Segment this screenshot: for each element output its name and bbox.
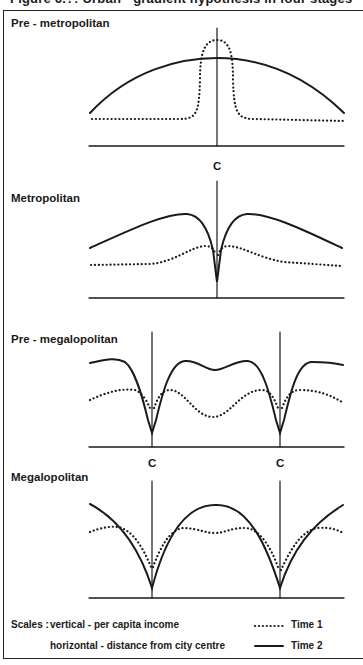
time2-curve: [90, 214, 342, 282]
legend-scales-label: Scales :: [11, 619, 49, 630]
panel-metropolitan: [89, 181, 344, 298]
panel-megalopolitan: [89, 481, 344, 598]
panel-pre-megalopolitan: [89, 332, 344, 447]
time1-curve: [90, 390, 342, 417]
time2-curve: [90, 504, 343, 588]
time1-curve: [90, 527, 343, 570]
legend-vertical-scale: vertical - per capita income: [50, 619, 179, 630]
time2-curve: [90, 359, 343, 433]
legend-time1-label: Time 1: [291, 619, 323, 630]
panel-pre-metropolitan: [89, 28, 344, 146]
legend-horizontal-scale: horizontal - distance from city centre: [50, 640, 225, 651]
legend-time2-label: Time 2: [291, 640, 323, 651]
